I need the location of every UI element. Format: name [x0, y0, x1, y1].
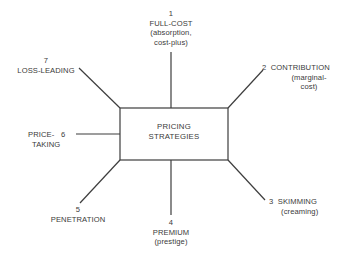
strategy-2-number: 2: [262, 63, 266, 72]
connector-3: [228, 160, 265, 200]
strategy-2-label: 2 CONTRIBUTION (marginal- cost): [262, 63, 339, 92]
strategy-1-name: FULL-COST: [131, 19, 211, 29]
strategy-7-number: 7: [14, 56, 78, 66]
strategy-4-name: PREMIUM: [131, 228, 211, 238]
strategy-4-label: 4 PREMIUM (prestige): [131, 218, 211, 247]
strategy-2-sub1: (marginal-: [262, 73, 339, 83]
strategy-1-sub1: (absorption,: [131, 28, 211, 38]
strategy-5-name: PENETRATION: [38, 215, 118, 225]
strategy-4-number: 4: [131, 218, 211, 228]
center-label: PRICING STRATEGIES: [120, 122, 228, 141]
strategy-7-label: 7 LOSS-LEADING: [14, 56, 78, 75]
strategy-7-name: LOSS-LEADING: [14, 66, 78, 76]
strategy-1-number: 1: [131, 9, 211, 19]
strategy-5-label: 5 PENETRATION: [38, 205, 118, 224]
strategy-6-name2: TAKING: [28, 140, 65, 150]
strategy-2-name: CONTRIBUTION: [271, 63, 330, 72]
connector-5: [80, 160, 120, 203]
strategy-6-name1: PRICE-: [28, 130, 54, 139]
connector-7: [79, 68, 120, 108]
connector-2: [228, 70, 263, 108]
strategy-3-sub1: (creaming): [269, 207, 318, 217]
strategy-1-sub2: cost-plus): [131, 38, 211, 48]
center-label-line2: STRATEGIES: [120, 132, 228, 142]
strategy-1-label: 1 FULL-COST (absorption, cost-plus): [131, 9, 211, 47]
center-label-line1: PRICING: [120, 122, 228, 132]
strategy-3-number: 3: [269, 197, 273, 206]
strategy-2-sub2: cost): [262, 82, 339, 92]
strategy-4-sub1: (prestige): [131, 237, 211, 247]
strategy-3-name: SKIMMING: [278, 197, 317, 206]
strategy-6-label: PRICE- 6 TAKING: [28, 130, 65, 149]
strategy-6-number: 6: [61, 130, 65, 139]
strategy-5-number: 5: [38, 205, 118, 215]
strategy-3-label: 3 SKIMMING (creaming): [269, 197, 318, 216]
